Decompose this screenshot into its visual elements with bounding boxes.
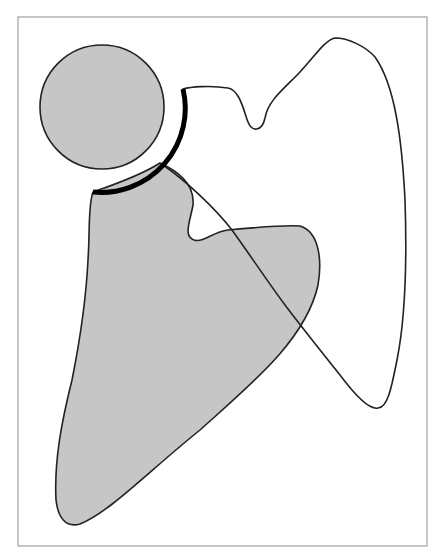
diagram-canvas: [0, 0, 440, 559]
gray-circle-shape: [40, 45, 164, 169]
